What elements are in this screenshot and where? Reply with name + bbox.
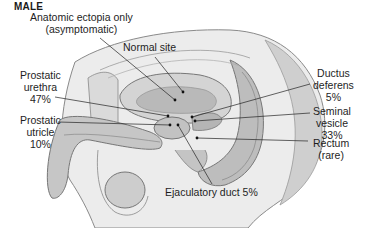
label-line: 5% — [313, 91, 354, 103]
label-prostatic-urethra: Prostatic urethra 47% — [20, 69, 61, 105]
leader-seminal-vesicle — [195, 113, 310, 121]
label-line: urethra — [20, 81, 61, 93]
label-line: Normal site — [123, 41, 176, 53]
marker-prostatic-utricle — [169, 124, 172, 127]
marker-seminal-vesicle — [194, 120, 197, 123]
anatomy-diagram: MALE Anatomic ectopia only (asymptomatic… — [0, 0, 365, 228]
marker-rectum — [196, 137, 199, 140]
marker-ejaculatory-duct — [177, 124, 180, 127]
label-line: 47% — [20, 93, 61, 105]
marker-normal-site — [182, 91, 185, 94]
leader-rectum — [197, 138, 308, 141]
leader-ejaculatory-duct — [178, 125, 212, 184]
label-rectum: Rectum (rare) — [313, 137, 349, 161]
label-line: Ductus — [313, 67, 354, 79]
label-line: vesicle — [313, 117, 351, 129]
label-line: Prostatic — [20, 114, 61, 126]
label-line: Rectum — [313, 137, 349, 149]
label-line: deferens — [313, 79, 354, 91]
marker-anatomic-ectopia — [174, 99, 177, 102]
label-line: (asymptomatic) — [30, 23, 133, 35]
label-seminal-vesicle: Seminal vesicle 33% — [313, 105, 351, 141]
leader-prostatic-utricle — [58, 122, 170, 125]
leader-ductus-deferens — [192, 84, 310, 117]
label-line: Seminal — [313, 105, 351, 117]
label-line: utricle — [20, 126, 61, 138]
label-ejaculatory-duct: Ejaculatory duct 5% — [165, 186, 258, 198]
label-line: 10% — [20, 138, 61, 150]
label-prostatic-utricle: Prostatic utricle 10% — [20, 114, 61, 150]
marker-prostatic-urethra — [167, 115, 170, 118]
label-line: Ejaculatory duct 5% — [165, 186, 258, 198]
leader-prostatic-urethra — [55, 97, 168, 116]
label-normal-site: Normal site — [123, 41, 176, 53]
marker-ductus-deferens — [191, 116, 194, 119]
label-ductus-deferens: Ductus deferens 5% — [313, 67, 354, 103]
label-line: Anatomic ectopia only — [30, 11, 133, 23]
label-line: (rare) — [313, 149, 349, 161]
label-line: Prostatic — [20, 69, 61, 81]
label-anatomic-ectopia: Anatomic ectopia only (asymptomatic) — [30, 11, 133, 35]
